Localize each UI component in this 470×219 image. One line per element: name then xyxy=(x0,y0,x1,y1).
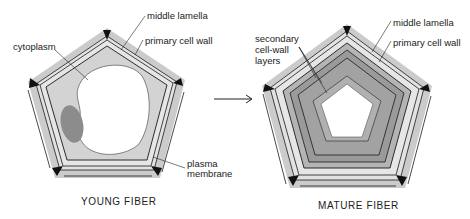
arrow-icon xyxy=(214,95,252,103)
young-vacuole xyxy=(77,65,149,154)
label-secondary-1: secondary xyxy=(255,33,299,44)
label-plasma-membrane-2: membrane xyxy=(187,168,232,179)
caption-young-fiber: YOUNG FIBER xyxy=(81,196,157,207)
label-secondary-3: layers xyxy=(255,55,281,66)
label-primary-cell-wall: primary cell wall xyxy=(393,37,461,48)
leader-line xyxy=(372,21,391,52)
label-middle-lamella: middle lamella xyxy=(393,17,454,28)
label-cytoplasm: cytoplasm xyxy=(13,41,56,52)
label-middle-lamella: middle lamella xyxy=(147,10,208,21)
fiber-diagram: middle lamella primary cell wall cytopla… xyxy=(0,0,470,219)
caption-mature-fiber: MATURE FIBER xyxy=(318,200,399,211)
leader-line xyxy=(121,16,145,50)
label-primary-cell-wall: primary cell wall xyxy=(145,35,213,46)
label-secondary-2: cell-wall xyxy=(255,44,289,55)
